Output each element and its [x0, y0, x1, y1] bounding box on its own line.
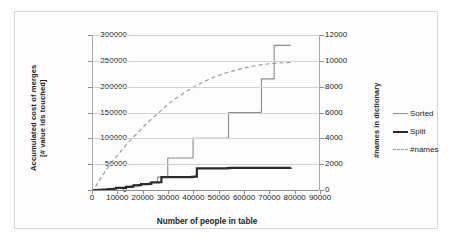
plot-area: [92, 35, 320, 190]
legend-item-names[interactable]: #names: [393, 140, 438, 158]
y-axis-right-tick-label: 6000: [325, 109, 343, 117]
series-line-split: [93, 168, 291, 190]
x-axis-tick-label: 60000: [233, 194, 255, 202]
x-axis-title: Number of people in table: [92, 217, 322, 226]
legend-item-split[interactable]: Split: [393, 122, 438, 140]
gridline: [93, 87, 319, 88]
chart-legend: SortedSplit#names: [393, 104, 438, 158]
y-axis-right-tick-label: 10000: [325, 57, 347, 65]
y-axis-right-tick-label: 4000: [325, 134, 343, 142]
gridline: [93, 61, 319, 62]
gridline: [93, 113, 319, 114]
y-axis-right-tick-label: 8000: [325, 83, 343, 91]
gridline: [93, 138, 319, 139]
legend-item-label: Split: [410, 127, 426, 136]
x-axis-tick-label: 20000: [132, 194, 154, 202]
x-axis-tick-label: 50000: [208, 194, 230, 202]
x-axis-tick-label: 40000: [182, 194, 204, 202]
y-axis-right-tick-label: 2000: [325, 160, 343, 168]
legend-swatch-icon: [393, 146, 408, 153]
x-axis-tick-mark: [320, 190, 321, 194]
legend-item-sorted[interactable]: Sorted: [393, 104, 438, 122]
legend-swatch-icon: [393, 110, 408, 117]
x-axis-tick-label: 70000: [258, 194, 280, 202]
y-axis-left-title: Accumulated cost of merges [# value ids …: [30, 32, 48, 204]
legend-item-label: #names: [410, 145, 438, 154]
chart-container: Accumulated cost of merges [# value ids …: [14, 11, 438, 229]
gridline: [93, 35, 319, 36]
legend-swatch-icon: [393, 128, 408, 135]
x-axis-tick-label: 0: [90, 194, 94, 202]
gridline: [93, 164, 319, 165]
y-axis-right-title: #names in dictionary: [373, 40, 382, 200]
x-axis-tick-label: 90000: [309, 194, 331, 202]
x-axis-tick-label: 10000: [106, 194, 128, 202]
x-axis-tick-label: 80000: [284, 194, 306, 202]
x-axis-tick-label: 30000: [157, 194, 179, 202]
legend-item-label: Sorted: [410, 109, 434, 118]
gridline: [93, 190, 319, 191]
y-axis-right-tick-label: 12000: [325, 31, 347, 39]
